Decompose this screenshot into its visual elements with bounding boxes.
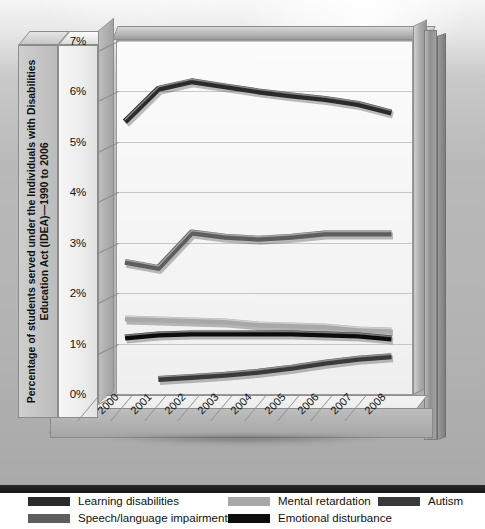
legend-item-label: Emotional disturbance bbox=[278, 513, 392, 524]
series-learning-disabilities bbox=[125, 79, 393, 124]
series-highlight bbox=[125, 79, 392, 119]
bottom-dark-band bbox=[0, 485, 485, 493]
legend-item-speech-language-impairments: Speech/language impairments bbox=[28, 513, 233, 524]
legend-swatch-icon bbox=[28, 497, 70, 506]
legend-item-learning-disabilities: Learning disabilities bbox=[28, 496, 179, 507]
chart-legend: Learning disabilities Mental retardation… bbox=[0, 493, 485, 529]
chart-3d-container: Percentage of students served under the … bbox=[0, 0, 485, 485]
series-emotional-disturbance bbox=[125, 332, 393, 342]
legend-row-1: Learning disabilities Mental retardation… bbox=[0, 496, 485, 513]
legend-item-mental-retardation: Mental retardation bbox=[228, 496, 371, 507]
legend-item-emotional-disturbance: Emotional disturbance bbox=[228, 513, 392, 524]
legend-item-label: Learning disabilities bbox=[78, 496, 179, 507]
legend-item-label: Autism bbox=[428, 496, 463, 507]
series-autism bbox=[158, 354, 393, 381]
legend-swatch-icon bbox=[28, 514, 70, 523]
legend-swatch-icon bbox=[378, 497, 420, 506]
legend-item-label: Mental retardation bbox=[278, 496, 371, 507]
legend-swatch-icon bbox=[228, 514, 270, 523]
legend-swatch-icon bbox=[228, 497, 270, 506]
legend-row-2: Speech/language impairments Emotional di… bbox=[0, 513, 485, 529]
legend-item-autism: Autism bbox=[378, 496, 463, 507]
series-speech-language-impairments bbox=[125, 231, 393, 271]
chart-series-layer bbox=[0, 0, 485, 485]
legend-item-label: Speech/language impairments bbox=[78, 513, 233, 524]
